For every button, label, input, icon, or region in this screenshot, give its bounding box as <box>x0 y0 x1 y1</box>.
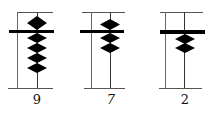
bottom-frame-line <box>159 88 202 89</box>
lower-bead <box>175 43 195 53</box>
lower-bead <box>175 34 195 44</box>
abacus-column-2: 2 <box>0 0 60 116</box>
column-label: 2 <box>175 92 195 107</box>
crossbar <box>160 30 205 34</box>
top-frame-line <box>160 12 203 13</box>
bottom-frame-line <box>84 88 125 89</box>
lower-bead <box>100 43 120 53</box>
abacus-diagram: 9 7 2 <box>0 0 210 116</box>
top-frame-line <box>82 12 125 13</box>
crossbar <box>80 30 124 33</box>
frame-left-post <box>165 12 166 89</box>
lower-bead <box>100 33 120 43</box>
frame-left-post <box>91 12 92 89</box>
column-label: 7 <box>101 92 121 107</box>
upper-bead <box>100 19 120 30</box>
